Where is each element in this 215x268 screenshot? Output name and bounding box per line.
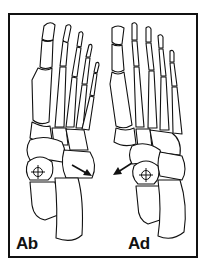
label-adduction: Ad (128, 234, 150, 254)
foot-skeletons-illustration (0, 0, 215, 268)
left-foot-skeleton (26, 23, 99, 241)
right-foot-skeleton (110, 23, 185, 239)
label-abduction: Ab (16, 234, 38, 254)
